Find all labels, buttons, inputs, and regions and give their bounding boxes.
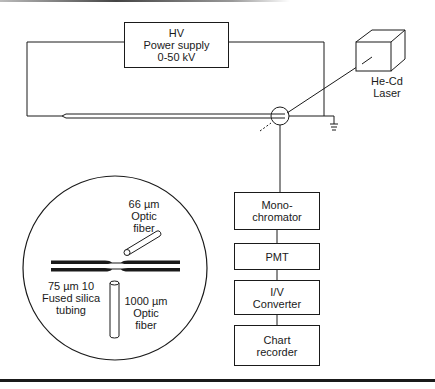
fiber-dashed xyxy=(260,123,271,131)
tubing-line2: Fused silica xyxy=(36,292,106,304)
tubing-line1: 75 µm 10 xyxy=(36,280,106,292)
fiber-1000-label: 1000 µm Optic fiber xyxy=(119,295,173,331)
mono-label-line2: chromator xyxy=(252,211,302,223)
diagram-canvas: HV Power supply 0-50 kV He-Cd Laser Mono… xyxy=(0,0,435,389)
pmt-box: PMT xyxy=(234,243,320,270)
fused-silica-tubing xyxy=(51,261,180,272)
optic-fiber-1000um xyxy=(110,281,119,338)
fiber-66-line2: Optic xyxy=(124,210,164,222)
laser-label-line1: He-Cd xyxy=(362,75,412,87)
iv-label-line2: Converter xyxy=(253,298,301,310)
hv-label: HV xyxy=(143,27,209,39)
chart-label-line1: Chart xyxy=(257,334,298,346)
chart-label-line2: recorder xyxy=(257,346,298,358)
laser-box-icon xyxy=(356,30,405,71)
hv-power-supply-box: HV Power supply 0-50 kV xyxy=(124,22,229,68)
monochromator-box: Mono- chromator xyxy=(234,192,320,230)
tubing-label: 75 µm 10 Fused silica tubing xyxy=(36,280,106,316)
wire-ground xyxy=(289,116,334,124)
hv-label-line3: 0-50 kV xyxy=(143,51,209,63)
ground-icon xyxy=(330,124,338,130)
wire-left xyxy=(27,42,124,116)
laser-label-line2: Laser xyxy=(362,87,412,99)
hv-label-line2: Power supply xyxy=(143,39,209,51)
bottom-rule xyxy=(0,379,435,382)
pmt-label: PMT xyxy=(265,251,288,263)
fiber-66-line1: 66 µm xyxy=(124,198,164,210)
tubing-line3: tubing xyxy=(36,304,106,316)
mono-label-line1: Mono- xyxy=(252,199,302,211)
wire-right xyxy=(228,42,324,116)
fiber-1000-line3: fiber xyxy=(119,319,173,331)
iv-label-line1: I/V xyxy=(253,286,301,298)
iv-converter-box: I/V Converter xyxy=(234,280,320,315)
fiber-66-line3: fiber xyxy=(124,222,164,234)
chart-recorder-box: Chart recorder xyxy=(234,325,320,366)
fiber-1000-line2: Optic xyxy=(119,307,173,319)
fiber-1000-line1: 1000 µm xyxy=(119,295,173,307)
optic-fiber-66um xyxy=(124,231,161,256)
detection-junction xyxy=(271,107,289,125)
fiber-66-label: 66 µm Optic fiber xyxy=(124,198,164,234)
laser-label: He-Cd Laser xyxy=(362,75,412,99)
capillary xyxy=(62,114,271,118)
